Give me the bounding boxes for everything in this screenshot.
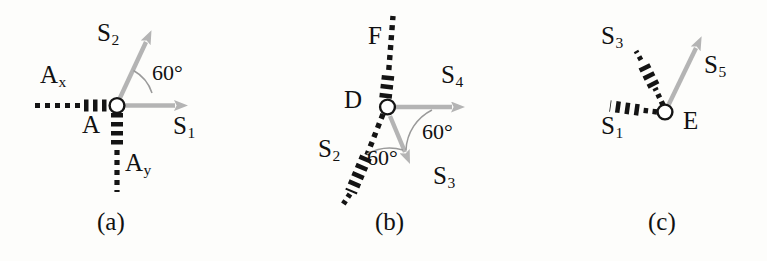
label-angle-b-1: 60°: [422, 121, 453, 143]
label-joint-D: D: [344, 87, 362, 112]
joint-node-c: [658, 105, 673, 120]
caption-b: (b): [375, 209, 404, 234]
label-S3-c: S3: [601, 23, 623, 51]
label-joint-E: E: [683, 108, 698, 133]
label-Ay: Ay: [125, 150, 151, 178]
label-S3-b: S3: [433, 163, 455, 191]
caption-a: (a): [97, 209, 125, 234]
label-angle-a: 60°: [152, 62, 183, 84]
label-Ax: Ax: [40, 62, 66, 90]
member-S5-arrow-c: [668, 48, 696, 106]
label-S5-c: S5: [704, 52, 726, 80]
label-angle-b-2: 60°: [367, 147, 398, 169]
joint-node-b: [380, 100, 395, 115]
label-S1-a: S1: [173, 113, 195, 141]
member-F-line: [386, 16, 394, 98]
label-S4-b: S4: [441, 62, 463, 90]
label-F: F: [368, 23, 382, 48]
label-S2-a: S2: [97, 20, 119, 48]
label-joint-A: A: [82, 112, 100, 137]
label-S2-b: S2: [318, 136, 340, 164]
member-S2-arrow-a: [119, 42, 146, 100]
member-S1-line-c: [610, 106, 657, 112]
member-S3-line-c: [636, 51, 663, 105]
figure-canvas: S2 Ax A Ay S1 60° (a) F D S4 S2 S3 60° 6…: [0, 0, 767, 261]
angle-arc-a: [134, 71, 153, 94]
joint-node-a: [110, 98, 125, 113]
caption-c: (c): [648, 209, 676, 234]
label-S1-c: S1: [601, 113, 623, 141]
